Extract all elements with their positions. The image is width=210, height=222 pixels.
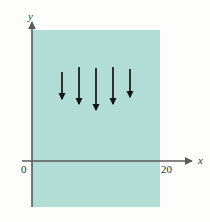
shaded-region — [32, 30, 160, 207]
x-axis-label: x — [198, 155, 203, 166]
y-axis-label: y — [28, 11, 33, 22]
x-tick-label-20: 20 — [161, 164, 172, 175]
figure-container: y x 0 20 — [0, 0, 210, 222]
vector-field-plot — [0, 0, 210, 222]
x-tick-label-0: 0 — [21, 164, 27, 175]
